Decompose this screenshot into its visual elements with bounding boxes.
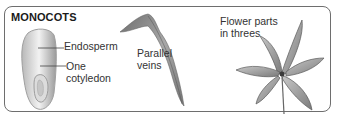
flower-parts-label: Flower parts in threes <box>220 15 278 39</box>
veins-label-line2: veins <box>137 59 172 71</box>
flower-label-line2: in threes <box>220 27 278 39</box>
cotyledon-label-line2: cotyledon <box>66 72 111 84</box>
cotyledon-label-line1: One <box>66 60 111 72</box>
veins-label-line1: Parallel <box>137 47 172 59</box>
endosperm-label: Endosperm <box>64 40 118 52</box>
panel-title: MONOCOTS <box>11 11 77 23</box>
seed-illustration <box>14 25 74 115</box>
flower-label-line1: Flower parts <box>220 15 278 27</box>
cotyledon-label: One cotyledon <box>66 60 111 84</box>
parallel-veins-label: Parallel veins <box>137 47 172 71</box>
